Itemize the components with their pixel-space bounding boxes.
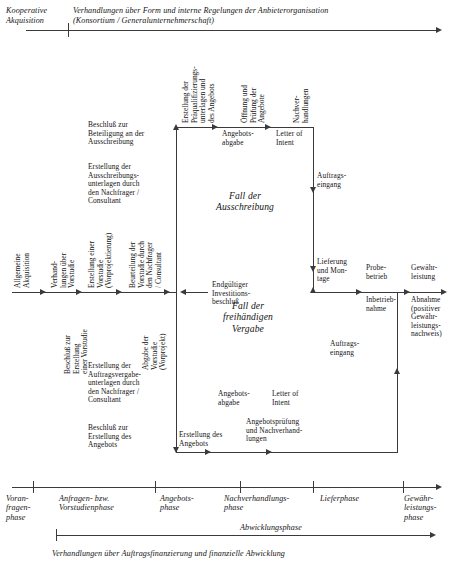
header-axis-arrowhead	[436, 27, 442, 33]
phase-label-4: Lieferphase	[320, 494, 388, 503]
right-section-line	[313, 292, 445, 293]
header-main-label: Verhandlungen über Form und interne Rege…	[73, 6, 413, 25]
label-abgabe-vorstudie: Abgabe der Vorstudie (Vorprojekt)	[142, 304, 168, 370]
right-arrow-2	[404, 289, 410, 295]
label-probebetrieb: Probe- betrieb	[366, 264, 406, 281]
abwicklung-axis-line	[56, 535, 432, 536]
label-verhandlungen-vorstudie: Verhand- lungen über Vorstudie	[51, 226, 77, 288]
abwicklung-label: Abwicklungsphase	[240, 523, 390, 532]
lieferung-arrowhead-down	[310, 266, 316, 272]
phase-label-5: Gewähr- leistungs- phase	[404, 494, 456, 522]
abwicklung-axis-tick	[56, 529, 57, 541]
label-letter-of-intent-upper: Letter of Intent	[276, 130, 322, 147]
label-erstellung-vorstudie: Erstellung einer Vorstudie (Vorprojektie…	[88, 214, 114, 288]
label-beschluss-erstellung-vorstudie: Beschluß zur Erstellung einer Vorstudie	[64, 300, 90, 374]
footer-label: Verhandlungen über Auftragsfinanzierung …	[52, 549, 452, 559]
phase-label-1: Anfragen- bzw. Vorstudienphase	[59, 494, 155, 513]
spine-arrow-2	[76, 289, 82, 295]
label-lieferung-montage: Lieferung und Mon- tage	[317, 258, 365, 284]
label-abnahme: Abnahme (positiver Gewähr- leistungs- na…	[411, 296, 457, 339]
label-auftragseingang-lower: Auftrags- eingang	[330, 340, 382, 357]
label-gewaehrleistung: Gewähr- leistung	[411, 264, 457, 281]
label-inbetriebnahme: Inbetrieb- nahme	[366, 296, 410, 313]
phase-label-0: Voran- fragen- phase	[6, 494, 54, 522]
label-nachverhandlungen: Nachver- handlungen	[293, 61, 310, 123]
header-axis-tick	[68, 23, 69, 37]
right-arrow-3	[441, 289, 447, 295]
upper-branch-arrow-1	[212, 124, 218, 130]
spine-arrow-3	[116, 289, 122, 295]
label-angebotsabgabe-lower: Angebots- abgabe	[218, 390, 272, 407]
upper-branch-arrow-2	[265, 124, 271, 130]
header-axis-line	[26, 30, 438, 31]
phase-axis-line	[12, 487, 438, 488]
label-letter-of-intent-lower: Letter of Intent	[272, 390, 320, 407]
right-arrow-1	[356, 289, 362, 295]
label-oeffnung-pruefung: Öffnung und Prüfung der Angebote	[241, 61, 267, 123]
label-praequalifizierung: Erstellung der Präqualifizierungs- unter…	[182, 43, 216, 123]
auftragseingang-arrowhead-lower	[394, 368, 400, 374]
lower-branch-arrow-2	[266, 449, 272, 455]
label-auftragseingang-upper: Auftrags- eingang	[317, 172, 369, 189]
phase-tick-5	[403, 481, 404, 493]
label-beurteilung-vorstudie: Beurteilung der Vorstudie durch den Nach…	[129, 214, 163, 288]
main-spine-line	[12, 292, 176, 293]
phase-tick-4	[313, 481, 314, 493]
investment-decision-arrowhead	[180, 289, 186, 295]
label-beschluss-erstellung-angebots: Beschluß zur Erstellung des Angebots	[88, 424, 172, 450]
process-diagram: Kooperative Akquisition Verhandlungen üb…	[0, 0, 457, 570]
phase-label-3: Nachverhandlungs- phase	[224, 494, 320, 513]
lower-branch-arrow-1	[205, 449, 211, 455]
auftragseingang-arrowhead-upper	[310, 187, 316, 193]
label-erstellung-des-angebots: Erstellung des Angebots	[179, 431, 241, 448]
branch-title-ausschreibung: Fall der Ausschreibung	[183, 190, 307, 213]
phase-tick-2	[155, 481, 156, 493]
label-beschluss-beteiligung: Beschluß zur Beteiligung an der Ausschre…	[88, 121, 172, 147]
upper-branch-line	[176, 127, 313, 128]
branch-title-freihaendige: Fall der freihändigen Vergabe	[183, 300, 313, 334]
decision-junction-line	[176, 127, 177, 453]
label-erstellung-auftragsvergabeunterlagen: Erstellung der Auftragsvergabe- unterlag…	[88, 362, 176, 405]
spine-arrow-1	[40, 289, 46, 295]
phase-tick-1	[33, 481, 34, 493]
label-angebotsabgabe-upper: Angebots- abgabe	[222, 130, 278, 147]
label-allgemeine-akquisition: Allgemeine Akquisition	[14, 228, 31, 288]
phase-axis-arrowhead	[436, 484, 442, 490]
label-angebotspruefung-nachverhandlungen: Angebotsprüfung und Nachverhand- lungen	[246, 418, 338, 444]
phase-tick-3	[240, 481, 241, 493]
abwicklung-axis-arrowhead	[430, 532, 436, 538]
header-left-label: Kooperative Akquisition	[6, 6, 68, 25]
spine-arrow-4	[164, 289, 170, 295]
label-erstellung-ausschreibungsunterlagen: Erstellung der Ausschreibungs- unterlage…	[88, 163, 172, 206]
phase-label-2: Angebots- phase	[160, 494, 222, 513]
